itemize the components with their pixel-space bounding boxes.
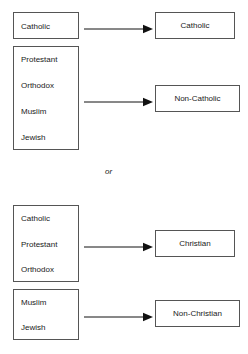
output-label: Non-Christian bbox=[173, 309, 222, 318]
group-item: Catholic bbox=[21, 22, 50, 31]
output-label: Christian bbox=[179, 239, 211, 248]
output-label: Catholic bbox=[181, 21, 210, 30]
group-christian-source: CatholicProtestantOrthodox bbox=[13, 205, 79, 282]
group-item: Muslim bbox=[21, 107, 46, 116]
output-catholic: Catholic bbox=[155, 12, 235, 39]
group-item: Orthodox bbox=[21, 265, 54, 274]
arrow-non-christian-icon bbox=[84, 308, 153, 318]
group-catholic-source: Catholic bbox=[13, 12, 79, 39]
group-item: Protestant bbox=[21, 240, 57, 249]
group-item: Orthodox bbox=[21, 81, 54, 90]
arrow-catholic-icon bbox=[84, 20, 153, 30]
group-non-catholic-source: ProtestantOrthodoxMuslimJewish bbox=[13, 46, 79, 150]
arrow-christian-icon bbox=[84, 238, 153, 248]
group-item: Jewish bbox=[21, 323, 45, 332]
output-non-catholic: Non-Catholic bbox=[155, 85, 240, 112]
output-non-christian: Non-Christian bbox=[155, 300, 240, 327]
group-item: Catholic bbox=[21, 214, 50, 223]
output-christian: Christian bbox=[155, 230, 235, 257]
group-item: Jewish bbox=[21, 133, 45, 142]
group-non-christian-source: MuslimJewish bbox=[13, 289, 79, 340]
output-label: Non-Catholic bbox=[174, 94, 220, 103]
group-item: Protestant bbox=[21, 55, 57, 64]
group-item: Muslim bbox=[21, 298, 46, 307]
arrow-non-catholic-icon bbox=[84, 93, 153, 103]
or-separator-label: or bbox=[105, 167, 112, 176]
classification-diagram: CatholicProtestantOrthodoxMuslimJewishCa… bbox=[0, 0, 248, 354]
